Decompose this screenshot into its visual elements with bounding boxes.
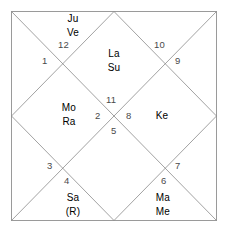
planet-group-house-12: Ju Ve <box>59 13 87 38</box>
house-number-3: 3 <box>47 161 52 171</box>
planet-group-house-4: Sa (R) <box>58 192 88 217</box>
planet-group-house-7: Ke <box>147 110 177 121</box>
planet-group-house-6: Ma Me <box>148 192 178 217</box>
house-number-2: 2 <box>95 111 100 121</box>
house-number-8: 8 <box>126 111 131 121</box>
planet-rahu: Ra <box>62 116 75 127</box>
house-number-11: 11 <box>106 95 116 105</box>
planet-group-house-10: La Su <box>100 48 128 73</box>
house-number-4: 4 <box>64 176 69 186</box>
house-number-7: 7 <box>175 161 180 171</box>
vedic-birth-chart: 12 1 10 9 11 2 8 5 3 4 7 6 Ju Ve La Su M… <box>0 0 228 233</box>
planet-ketu: Ke <box>156 110 169 121</box>
chart-geometry <box>0 0 228 233</box>
planet-mars: Ma <box>156 192 170 203</box>
house-number-6: 6 <box>161 176 166 186</box>
house-number-5: 5 <box>111 126 116 136</box>
planet-group-house-1: Mo Ra <box>54 102 84 127</box>
planet-sun: Su <box>108 62 121 73</box>
house-number-1: 1 <box>42 56 47 66</box>
planet-saturn: Sa <box>67 192 80 203</box>
planet-moon: Mo <box>62 102 76 113</box>
planet-venus: Ve <box>67 27 79 38</box>
planet-saturn-retrograde-marker: (R) <box>66 206 80 217</box>
planet-mercury: Me <box>156 206 170 217</box>
house-number-12: 12 <box>58 40 69 50</box>
planet-jupiter: Ju <box>68 13 79 24</box>
house-number-9: 9 <box>175 56 180 66</box>
house-number-10: 10 <box>154 40 165 50</box>
planet-lagna: La <box>108 48 120 59</box>
